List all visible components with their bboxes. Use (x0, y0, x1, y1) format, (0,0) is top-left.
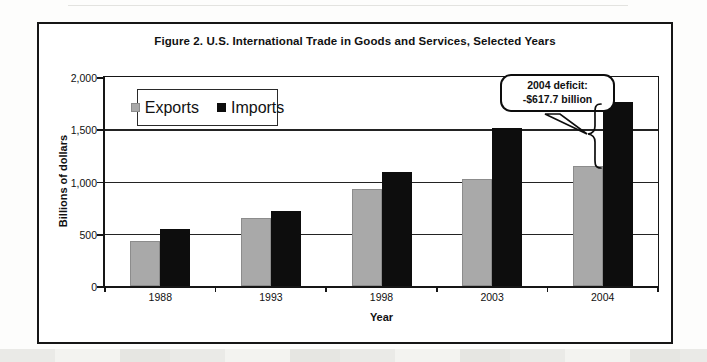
annotation-bubble: 2004 deficit: -$617.7 billion (500, 74, 615, 112)
y-tick-label-1000: 1,000 (53, 177, 97, 189)
legend-label-exports: Exports (145, 99, 199, 117)
bar-exports-1998 (352, 189, 382, 286)
x-tick-label-2003: 2003 (437, 291, 548, 303)
bar-imports-1998 (382, 172, 412, 286)
bar-imports-1988 (160, 229, 190, 286)
x-axis-title: Year (105, 311, 658, 323)
imports-swatch-icon (217, 103, 226, 112)
bar-imports-2004 (603, 102, 633, 286)
bar-exports-1993 (241, 218, 271, 286)
y-tick-mark-0 (97, 286, 103, 288)
scan-artifact-bottom-strip (0, 349, 707, 362)
gridline-1500 (105, 129, 658, 130)
x-tick-label-1998: 1998 (326, 291, 437, 303)
y-tick-mark-1000 (97, 182, 103, 184)
annotation-line2: -$617.7 billion (523, 93, 592, 105)
scan-artifact-top-line (68, 5, 628, 6)
y-tick-mark-500 (97, 234, 103, 236)
y-tick-label-500: 500 (53, 229, 97, 241)
bar-exports-2003 (462, 179, 492, 286)
legend-label-imports: Imports (231, 99, 284, 117)
y-tick-label-1500: 1,500 (53, 124, 97, 136)
y-tick-mark-1500 (97, 129, 103, 131)
bar-imports-2003 (492, 128, 522, 286)
figure-box: Figure 2. U.S. International Trade in Go… (37, 22, 673, 344)
figure-title: Figure 2. U.S. International Trade in Go… (39, 35, 671, 47)
y-tick-label-0: 0 (53, 281, 97, 293)
y-tick-mark-2000 (97, 77, 103, 79)
bar-exports-1988 (130, 241, 160, 286)
legend-item-exports: Exports (131, 99, 199, 117)
annotation-line1: 2004 deficit: (527, 79, 588, 91)
x-tick-label-1988: 1988 (105, 291, 216, 303)
x-tick-label-2004: 2004 (547, 291, 658, 303)
bar-imports-1993 (271, 211, 301, 286)
y-tick-label-2000: 2,000 (53, 72, 97, 84)
x-tick-label-1993: 1993 (216, 291, 327, 303)
page: Figure 2. U.S. International Trade in Go… (0, 0, 707, 362)
legend-item-imports: Imports (217, 99, 284, 117)
exports-swatch-icon (131, 103, 140, 112)
bar-exports-2004 (573, 166, 603, 286)
legend: Exports Imports (137, 89, 278, 126)
